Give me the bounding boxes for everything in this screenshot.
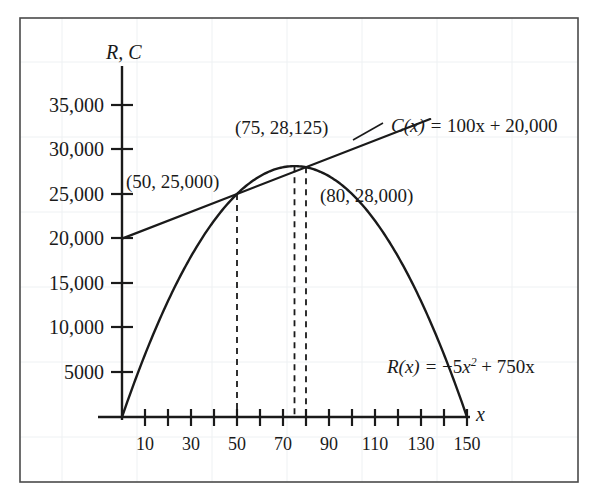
y-tick-label-15000: 15,000 xyxy=(0,273,104,293)
cost-equation-rhs: 100x + 20,000 xyxy=(447,115,557,136)
y-tick-label-10000: 10,000 xyxy=(0,317,104,337)
y-axis-label: R, C xyxy=(106,42,142,62)
background-grid xyxy=(20,18,578,482)
annotation-break-even-high: (80, 28,000) xyxy=(320,186,413,205)
x-tick-label-70: 70 xyxy=(263,435,303,453)
x-tick-label-110: 110 xyxy=(355,435,395,453)
x-tick-label-10: 10 xyxy=(125,435,165,453)
x-tick-label-130: 130 xyxy=(401,435,441,453)
revenue-equation-var: x xyxy=(462,356,470,377)
y-tick-label-35000: 35,000 xyxy=(0,95,104,115)
x-tick-label-50: 50 xyxy=(217,435,257,453)
y-tick-label-20000: 20,000 xyxy=(0,228,104,248)
figure-frame xyxy=(20,18,578,482)
revenue-equation-coef: −5 xyxy=(442,356,462,377)
revenue-equation-lhs: R(x) = xyxy=(387,356,442,377)
x-axis-label: x xyxy=(476,404,485,424)
x-tick-label-150: 150 xyxy=(447,435,487,453)
cost-equation-lhs: C(x) = xyxy=(391,115,447,136)
dashed-drop-lines xyxy=(237,166,306,417)
cost-equation-label: C(x) = 100x + 20,000 xyxy=(391,116,558,135)
y-tick-label-30000: 30,000 xyxy=(0,139,104,159)
figure-container: R, C x 35,000 30,000 25,000 20,000 15,00… xyxy=(0,0,592,494)
y-tick-label-25000: 25,000 xyxy=(0,184,104,204)
y-tick-label-5000: 5000 xyxy=(0,362,104,382)
revenue-equation-tail: + 750x xyxy=(477,356,535,377)
annotation-max-revenue: (75, 28,125) xyxy=(235,118,328,137)
x-tick-label-30: 30 xyxy=(171,435,211,453)
annotation-break-even-low: (50, 25,000) xyxy=(126,172,219,191)
revenue-equation-label: R(x) = −5x2 + 750x xyxy=(387,357,535,376)
x-tick-label-90: 90 xyxy=(309,435,349,453)
